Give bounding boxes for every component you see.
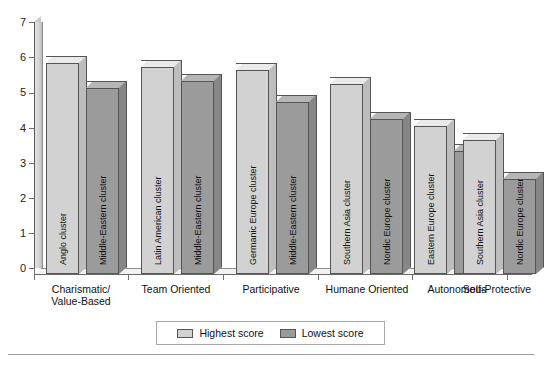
bar-front-face: Southern Asia cluster xyxy=(463,140,496,274)
bar-front-face: Anglo cluster xyxy=(46,63,79,274)
legend-label-highest: Highest score xyxy=(199,327,263,339)
bar-side-face xyxy=(309,95,317,274)
category-label-participative: Participative xyxy=(218,283,324,295)
x-tick-mark-0 xyxy=(34,274,35,280)
y-tick-label-2: 2 xyxy=(10,193,26,204)
category-label-line1: Team Oriented xyxy=(123,283,229,295)
bar-top-edge xyxy=(46,56,86,63)
bar-highest-group-2[interactable]: Germanic Europe cluster xyxy=(236,63,269,274)
bar-side-face xyxy=(536,172,544,274)
category-label-line1: Participative xyxy=(218,283,324,295)
x-tick-mark-3 xyxy=(318,274,319,280)
x-tick-mark-1 xyxy=(128,274,129,280)
category-label-self-protective: Self-Protective xyxy=(444,283,548,295)
x-axis-line xyxy=(34,274,532,275)
y-axis-line xyxy=(34,22,35,268)
category-label-line1: Charismatic/ xyxy=(28,283,134,295)
bar-front-face: Latin American cluster xyxy=(141,67,174,274)
y-tick-label-6: 6 xyxy=(10,52,26,63)
category-label-line1: Self-Protective xyxy=(444,283,548,295)
bar-label: Middle-Eastern cluster xyxy=(289,175,298,265)
bar-front-face: Nordic Europe cluster xyxy=(503,179,536,274)
y-tick-label-7: 7 xyxy=(10,17,26,28)
bar-front-face: Middle-Eastern cluster xyxy=(181,81,214,274)
bar-highest-group-4[interactable]: Eastern Europe cluster xyxy=(414,119,447,274)
bar-top-edge xyxy=(181,74,221,81)
bar-front-face: Germanic Europe cluster xyxy=(236,70,269,274)
category-label-charismatic: Charismatic/ Value-Based xyxy=(28,283,134,307)
chart-floor-left-edge xyxy=(34,268,43,275)
bar-label: Nordic Europe cluster xyxy=(516,178,525,265)
bar-label: Middle-Eastern cluster xyxy=(99,175,108,265)
legend-swatch-lowest-icon xyxy=(280,329,296,338)
bar-front-face: Nordic Europe cluster xyxy=(370,119,403,274)
legend-entry-lowest[interactable]: Lowest score xyxy=(280,327,364,339)
x-tick-mark-2 xyxy=(223,274,224,280)
bar-side-face xyxy=(403,112,411,274)
bar-label: Latin American cluster xyxy=(154,176,163,265)
bar-side-face xyxy=(119,81,127,274)
bar-highest-group-3[interactable]: Southern Asia cluster xyxy=(330,77,363,274)
x-tick-mark-6 xyxy=(507,274,508,280)
bar-front-face: Southern Asia cluster xyxy=(330,84,363,274)
category-label-line2: Value-Based xyxy=(28,295,134,307)
bar-front-face: Eastern Europe cluster xyxy=(414,126,447,274)
y-tick-label-1: 1 xyxy=(10,228,26,239)
plot-area: 7 6 5 4 3 2 1 0 xyxy=(0,0,542,290)
bottom-divider xyxy=(8,354,534,355)
y-tick-label-3: 3 xyxy=(10,158,26,169)
bar-top-edge xyxy=(503,172,543,179)
bar-lowest-group-3[interactable]: Nordic Europe cluster xyxy=(370,112,403,274)
bar-top-edge xyxy=(463,133,503,140)
legend-entry-highest[interactable]: Highest score xyxy=(177,327,263,339)
y-axis-wall xyxy=(34,22,43,268)
bar-top-edge xyxy=(236,63,276,70)
bar-label: Germanic Europe cluster xyxy=(249,165,258,265)
bar-top-edge xyxy=(276,95,316,102)
bar-top-edge xyxy=(370,112,410,119)
y-tick-label-5: 5 xyxy=(10,87,26,98)
legend-swatch-highest-icon xyxy=(177,329,193,338)
bar-top-edge xyxy=(414,119,454,126)
bar-lowest-group-2[interactable]: Middle-Eastern cluster xyxy=(276,95,309,274)
y-tick-label-0: 0 xyxy=(10,263,26,274)
chart-legend: Highest score Lowest score xyxy=(156,321,385,345)
bar-highest-group-5[interactable]: Southern Asia cluster xyxy=(463,133,496,274)
bar-lowest-group-0[interactable]: Middle-Eastern cluster xyxy=(86,81,119,274)
category-label-team-oriented: Team Oriented xyxy=(123,283,229,295)
bar-lowest-group-1[interactable]: Middle-Eastern cluster xyxy=(181,74,214,274)
bar-label: Middle-Eastern cluster xyxy=(194,175,203,265)
bar-label: Southern Asia cluster xyxy=(343,180,352,265)
legend-label-lowest: Lowest score xyxy=(302,327,364,339)
bar-lowest-group-5[interactable]: Nordic Europe cluster xyxy=(503,172,536,274)
bar-front-face: Middle-Eastern cluster xyxy=(86,88,119,274)
bar-top-edge xyxy=(86,81,126,88)
bar-top-edge xyxy=(141,60,181,67)
bar-highest-group-0[interactable]: Anglo cluster xyxy=(46,56,79,274)
bar-label: Eastern Europe cluster xyxy=(427,173,436,265)
x-tick-mark-4 xyxy=(412,274,413,280)
bar-label: Southern Asia cluster xyxy=(476,180,485,265)
bar-label: Nordic Europe cluster xyxy=(383,178,392,265)
y-tick-label-4: 4 xyxy=(10,123,26,134)
bar-label: Anglo cluster xyxy=(59,213,68,265)
bar-top-edge xyxy=(330,77,370,84)
bar-highest-group-1[interactable]: Latin American cluster xyxy=(141,60,174,274)
bar-front-face: Middle-Eastern cluster xyxy=(276,102,309,274)
bar-side-face xyxy=(214,74,222,274)
